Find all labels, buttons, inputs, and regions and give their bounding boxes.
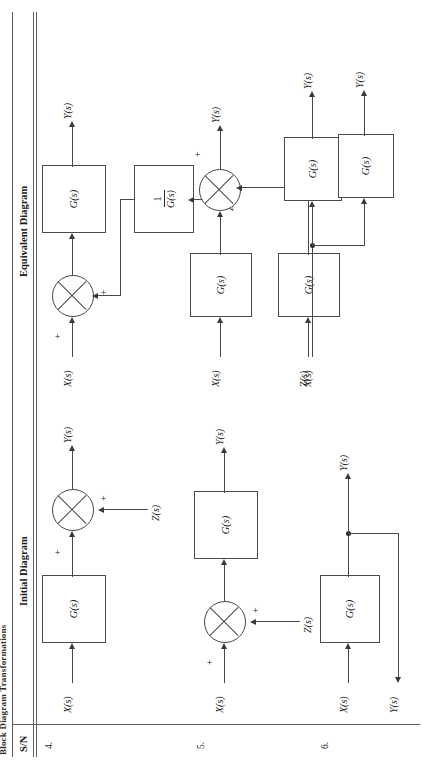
wire-block-to-output — [224, 451, 225, 493]
wire-invblock-to-sum — [120, 200, 121, 296]
arrow-into-sum-forward — [221, 643, 227, 649]
column-header-equivalent: Equivalent Diagram — [18, 186, 29, 277]
wire-aux-into-sum — [104, 509, 148, 510]
scanned-page: Block Diagram Transformations S/N Initia… — [0, 0, 422, 769]
arrow-output — [69, 445, 75, 451]
fraction-denominator: G(s) — [166, 190, 176, 208]
sign-aux: + — [98, 495, 109, 501]
wire-branch-to-output — [348, 477, 349, 533]
wire-input-to-block — [348, 647, 349, 683]
column-header-initial: Initial Diagram — [18, 536, 29, 606]
sign-forward: + — [204, 659, 215, 665]
sign-forward: + — [52, 333, 63, 339]
signal-label-output-branch: Y(s) — [354, 72, 365, 88]
arrow-output — [69, 121, 75, 127]
row-4-equivalent-diagram: X(s) + G(s) Y(s) + — [40, 57, 190, 387]
arrow-output-top — [345, 473, 351, 479]
sign-aux: + — [192, 151, 203, 157]
row-number-5: 5. — [196, 742, 206, 749]
page-caption: Block Diagram Transformations — [0, 495, 9, 755]
arrow-into-block-forward — [217, 317, 223, 323]
wire-blocktop-to-output — [312, 95, 313, 139]
arrow-aux-into-sum — [98, 507, 104, 513]
wire-input-to-block — [220, 321, 221, 357]
wire-blockfwd-to-sum — [220, 215, 221, 255]
block-label: G(s) — [69, 190, 80, 209]
block-label: G(s) — [69, 600, 80, 619]
wire-sum-to-block — [224, 563, 225, 601]
wire-aux-into-sum — [256, 621, 300, 622]
signal-label-output-top: Y(s) — [302, 73, 313, 89]
signal-label-input: X(s) — [302, 370, 313, 387]
sign-forward: + — [52, 549, 63, 555]
wire-input-to-branch — [312, 245, 313, 357]
arrow-into-block-top — [309, 201, 315, 207]
arrow-output — [221, 447, 227, 453]
block-g-top: G(s) — [284, 137, 342, 201]
signal-label-output-branch: Y(s) — [388, 697, 399, 713]
row-number-6: 6. — [320, 742, 330, 749]
table-header-rule — [33, 12, 34, 757]
block-g-bottom: G(s) — [338, 134, 394, 198]
wire-sum-to-output — [72, 449, 73, 489]
wire-input-to-sum — [224, 647, 225, 683]
row-6-equivalent-diagram: X(s) G(s) Y(s) G(s) Y(s) — [300, 47, 420, 387]
wire-blockbottom-to-output — [364, 94, 365, 136]
arrow-aux-into-sum — [92, 293, 98, 299]
wire-branch-to-block-bottom — [364, 202, 365, 246]
signal-label-input: X(s) — [62, 696, 73, 713]
arrow-into-block-bottom — [361, 198, 367, 204]
signal-label-input: X(s) — [214, 696, 225, 713]
summing-junction — [199, 169, 241, 211]
arrow-aux-into-sum — [236, 185, 242, 191]
wire-invblock-down — [120, 199, 134, 200]
signal-label-output: Y(s) — [62, 103, 73, 119]
table-header-rule-2 — [36, 12, 37, 757]
block-label: G(s) — [345, 600, 356, 619]
row-4-initial-diagram: X(s) G(s) + Y(s) + Z(s) — [40, 423, 180, 713]
sign-aux: + — [250, 607, 261, 613]
table-top-rule — [12, 12, 13, 757]
wire-block-to-branch — [348, 531, 349, 577]
signal-label-input: X(s) — [62, 370, 73, 387]
signal-label-output-top: Y(s) — [338, 455, 349, 471]
wire-block-to-output — [72, 125, 73, 167]
summing-junction — [204, 601, 246, 643]
block-g: G(s) — [194, 491, 258, 559]
arrow-into-block — [345, 643, 351, 649]
signal-label-input: X(s) — [338, 696, 349, 713]
row-6-initial-diagram: X(s) G(s) Y(s) Y(s) — [316, 423, 422, 713]
row-number-4: 4. — [44, 742, 54, 749]
arrow-into-block — [69, 643, 75, 649]
arrow-into-block — [69, 233, 75, 239]
arrow-into-block — [221, 559, 227, 565]
wire-sum-to-block — [72, 237, 73, 275]
signal-label-aux: Z(s) — [302, 617, 313, 633]
arrow-output-top — [309, 91, 315, 97]
table-sheet: Block Diagram Transformations S/N Initia… — [0, 0, 422, 769]
arrow-into-sum-forward — [69, 531, 75, 537]
wire-input-to-sum — [72, 321, 73, 357]
wire-branch-left — [398, 533, 399, 677]
arrow-output-branch — [361, 90, 367, 96]
block-label: G(s) — [216, 276, 227, 295]
wire-block-to-sum — [72, 535, 73, 577]
fraction-numerator: 1 — [153, 197, 163, 202]
arrow-into-sum-forward — [217, 211, 223, 217]
signal-label-output: Y(s) — [214, 429, 225, 445]
inverse-gain-fraction: 1 G(s) — [153, 190, 176, 208]
wire-sum-to-output — [220, 129, 221, 169]
wire-sum-drop — [98, 295, 120, 296]
block-g: G(s) — [42, 165, 106, 233]
column-header-sn: S/N — [18, 736, 29, 752]
arrow-into-sum-forward — [69, 317, 75, 323]
signal-label-output: Y(s) — [210, 107, 221, 123]
wire-branch-down — [312, 245, 364, 246]
summing-junction — [52, 489, 94, 531]
block-label: G(s) — [361, 157, 372, 176]
block-label: G(s) — [221, 516, 232, 535]
block-g: G(s) — [42, 575, 106, 643]
arrow-aux-into-sum — [250, 619, 256, 625]
block-label: G(s) — [308, 160, 319, 179]
summing-junction — [52, 275, 94, 317]
